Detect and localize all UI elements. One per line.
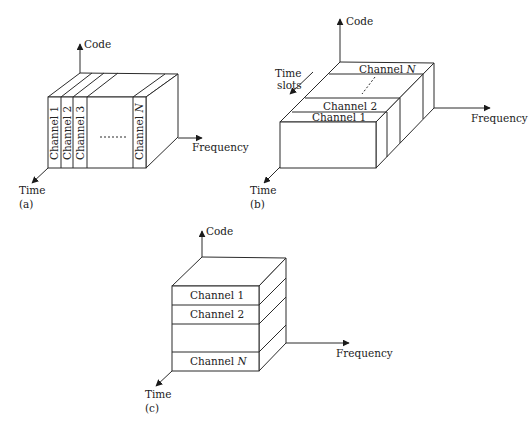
- channel-label: Channel 1: [190, 289, 244, 301]
- caption-c: (c): [145, 402, 159, 414]
- multiple-access-diagrams: Code Frequency Time (a) Channel 1 Channe…: [0, 0, 530, 426]
- channel-n-prefix: Channel: [133, 113, 145, 161]
- channel-label-n: Channel N: [133, 103, 145, 161]
- channel-n-prefix: Channel: [359, 63, 407, 75]
- frequency-axis-label: Frequency: [336, 347, 393, 359]
- diagram-b-tdma: Code Frequency Time (b) Time slots Chann…: [250, 15, 528, 210]
- channel-n-symbol: N: [237, 355, 248, 367]
- channel-label: Channel 2: [190, 308, 244, 320]
- channel-n-symbol: N: [406, 63, 417, 75]
- time-axis-arrow: [156, 371, 172, 386]
- channel-label: Channel 1: [48, 106, 60, 160]
- front-face: [280, 122, 376, 168]
- channel-label-n: Channel N: [190, 355, 248, 367]
- time-axis-label: Time: [145, 388, 172, 400]
- channel-n-symbol: N: [133, 103, 145, 114]
- frequency-axis-label: Frequency: [192, 141, 249, 153]
- code-axis-label: Code: [206, 225, 233, 237]
- time-axis-label: Time: [19, 184, 46, 196]
- channel-label: Channel 3: [74, 106, 86, 160]
- caption-b: (b): [250, 198, 265, 210]
- channel-label: Channel 1: [312, 111, 366, 123]
- time-axis-arrow: [264, 167, 280, 183]
- code-axis-label: Code: [84, 38, 111, 50]
- channel-label-n: Channel N: [359, 63, 417, 75]
- time-axis-arrow: [32, 168, 48, 183]
- diagram-c-cdma: Code Frequency Time (c) Channel 1 Channe…: [145, 225, 393, 414]
- frequency-axis-label: Frequency: [471, 112, 528, 124]
- caption-a: (a): [19, 198, 33, 210]
- time-slots-label: slots: [277, 79, 302, 91]
- code-axis-label: Code: [346, 15, 373, 27]
- time-slots-label: Time: [275, 67, 302, 79]
- diagram-a-fdma: Code Frequency Time (a) Channel 1 Channe…: [19, 38, 249, 210]
- channel-label: Channel 2: [61, 106, 73, 160]
- channel-n-prefix: Channel: [190, 355, 238, 367]
- time-axis-label: Time: [250, 184, 277, 196]
